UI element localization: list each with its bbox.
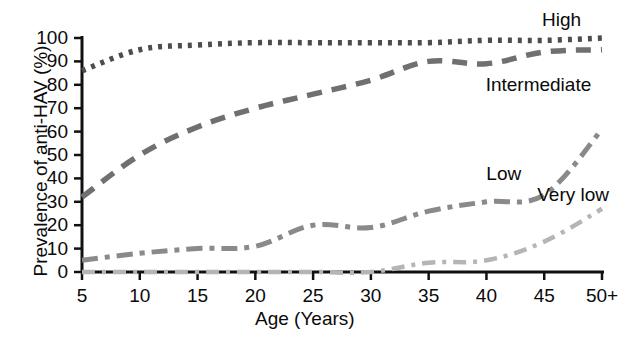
y-tick-label: 20 [0,214,68,236]
series-line-very-low [82,209,602,273]
y-tick-label: 40 [0,167,68,189]
series-annotation-low: Low [486,163,521,185]
y-tick-label: 50 [0,144,68,166]
y-tick-label: 30 [0,191,68,213]
series-annotation-high: High [542,9,581,31]
x-tick-label: 50+ [586,285,618,307]
x-tick-label: 5 [77,285,88,307]
y-tick-label: 10 [0,238,68,260]
series-annotation-very-low: Very low [537,184,609,206]
x-tick-label: 40 [476,285,497,307]
x-tick-label: 25 [303,285,324,307]
series-annotation-intermediate: Intermediate [486,74,592,96]
y-tick-label: 60 [0,121,68,143]
y-tick-label: 90 [0,50,68,72]
x-tick-label: 15 [187,285,208,307]
x-axis-title: Age (Years) [255,308,355,330]
y-tick-label: 100 [0,27,68,49]
x-tick-label: 10 [129,285,150,307]
x-tick-label: 45 [534,285,555,307]
series-line-low [82,129,602,260]
y-tick-label: 70 [0,97,68,119]
chart-container: Prevalence of anti-HAV (%) Age (Years) 0… [0,0,631,340]
x-tick-label: 30 [360,285,381,307]
series-line-intermediate [82,50,602,197]
series-line-high [82,38,602,71]
y-tick-label: 80 [0,74,68,96]
y-tick-label: 0 [0,261,68,283]
x-tick-label: 35 [418,285,439,307]
x-tick-label: 20 [245,285,266,307]
